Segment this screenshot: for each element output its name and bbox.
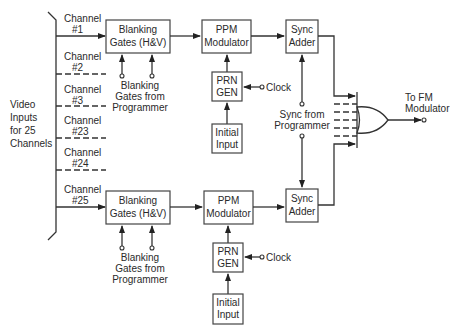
svg-text:Initial: Initial bbox=[215, 127, 238, 138]
svg-text:Clock: Clock bbox=[266, 82, 292, 93]
top-sync-to-or-wire bbox=[318, 36, 355, 96]
input-bus bbox=[48, 12, 56, 240]
top-clock-input: Clock bbox=[244, 82, 292, 93]
svg-text:Sync: Sync bbox=[291, 24, 313, 35]
svg-text:#23: #23 bbox=[72, 126, 89, 137]
svg-text:#2: #2 bbox=[72, 62, 84, 73]
svg-text:Gates from: Gates from bbox=[115, 263, 164, 274]
channel-3: Channel #3 bbox=[56, 84, 106, 106]
svg-text:GEN: GEN bbox=[216, 87, 238, 98]
top-initial-input-block: Initial Input bbox=[212, 124, 242, 153]
svg-text:Programmer: Programmer bbox=[112, 102, 168, 113]
svg-text:Channel: Channel bbox=[64, 115, 101, 126]
svg-text:Adder: Adder bbox=[289, 206, 316, 217]
svg-text:Blanking: Blanking bbox=[119, 24, 157, 35]
svg-text:PRN: PRN bbox=[216, 75, 237, 86]
bottom-sync-to-or-wire bbox=[318, 144, 355, 205]
channel-2: Channel #2 bbox=[56, 51, 106, 74]
svg-text:Blanking: Blanking bbox=[121, 80, 159, 91]
svg-text:Modulator: Modulator bbox=[405, 103, 450, 114]
or-gate bbox=[357, 107, 388, 133]
svg-text:GEN: GEN bbox=[217, 258, 239, 269]
svg-text:Channel: Channel bbox=[64, 51, 101, 62]
svg-text:Modulator: Modulator bbox=[206, 208, 251, 219]
svg-text:Channel: Channel bbox=[64, 84, 101, 95]
svg-text:PRN: PRN bbox=[217, 246, 238, 257]
top-sync-adder-block: Sync Adder bbox=[286, 20, 318, 53]
channel-25: Channel #25 bbox=[56, 184, 105, 207]
svg-text:Gates (H&V): Gates (H&V) bbox=[110, 37, 167, 48]
svg-text:Channel: Channel bbox=[64, 184, 101, 195]
dashed-channel-inputs bbox=[334, 104, 357, 136]
svg-text:Adder: Adder bbox=[289, 37, 316, 48]
bottom-initial-input-block: Initial Input bbox=[213, 294, 243, 324]
top-ppm-modulator-block: PPM Modulator bbox=[202, 20, 251, 53]
bottom-clock-input: Clock bbox=[245, 252, 292, 263]
bottom-sync-adder-block: Sync Adder bbox=[286, 189, 318, 222]
svg-text:Gates (H&V): Gates (H&V) bbox=[110, 208, 167, 219]
channel-23: Channel #23 bbox=[56, 115, 106, 138]
svg-text:Modulator: Modulator bbox=[204, 37, 249, 48]
bottom-ppm-modulator-block: PPM Modulator bbox=[204, 191, 253, 224]
top-blanking-gates-block: Blanking Gates (H&V) bbox=[106, 20, 170, 53]
svg-text:Programmer: Programmer bbox=[112, 274, 168, 285]
svg-text:PPM: PPM bbox=[218, 195, 240, 206]
svg-text:#24: #24 bbox=[72, 158, 89, 169]
svg-text:PPM: PPM bbox=[216, 24, 238, 35]
svg-text:for 25: for 25 bbox=[10, 125, 36, 136]
video-inputs-label: Video Inputs for 25 Channels bbox=[10, 99, 52, 149]
output-to-fm-modulator: To FM Modulator bbox=[388, 92, 450, 122]
svg-text:Channels: Channels bbox=[10, 138, 52, 149]
svg-text:Blanking: Blanking bbox=[119, 195, 157, 206]
top-prn-gen-block: PRN GEN bbox=[212, 72, 242, 101]
block-diagram: Video Inputs for 25 Channels Channel #1 … bbox=[0, 0, 454, 334]
svg-text:Channel: Channel bbox=[64, 13, 101, 24]
bottom-blanking-gates-block: Blanking Gates (H&V) bbox=[106, 191, 170, 224]
svg-text:To FM: To FM bbox=[405, 92, 433, 103]
svg-text:Input: Input bbox=[216, 139, 238, 150]
svg-text:Gates from: Gates from bbox=[115, 91, 164, 102]
svg-text:Inputs: Inputs bbox=[10, 112, 37, 123]
svg-text:Input: Input bbox=[217, 309, 239, 320]
svg-text:Sync from: Sync from bbox=[279, 109, 324, 120]
channel-1: Channel #1 bbox=[56, 13, 105, 36]
svg-text:Blanking: Blanking bbox=[121, 252, 159, 263]
svg-text:Sync: Sync bbox=[291, 193, 313, 204]
sync-from-programmer: Sync from Programmer bbox=[274, 55, 330, 187]
svg-text:Initial: Initial bbox=[216, 297, 239, 308]
svg-text:Programmer: Programmer bbox=[274, 120, 330, 131]
bottom-prn-gen-block: PRN GEN bbox=[213, 243, 243, 272]
svg-text:#25: #25 bbox=[72, 195, 89, 206]
top-blanking-inputs: Blanking Gates from Programmer bbox=[112, 55, 168, 113]
svg-text:#3: #3 bbox=[72, 95, 84, 106]
svg-text:Clock: Clock bbox=[266, 252, 292, 263]
svg-text:#1: #1 bbox=[72, 24, 84, 35]
svg-text:Channel: Channel bbox=[64, 147, 101, 158]
bottom-blanking-inputs: Blanking Gates from Programmer bbox=[112, 226, 168, 285]
svg-text:Video: Video bbox=[10, 99, 36, 110]
channel-24: Channel #24 bbox=[56, 147, 106, 170]
